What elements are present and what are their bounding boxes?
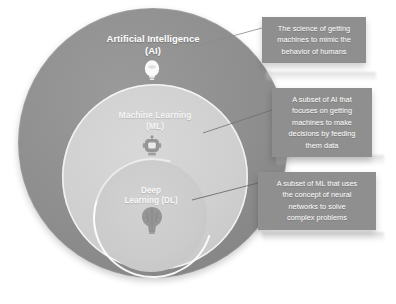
ml-circle-label: Machine Learning (ML) [78, 110, 232, 131]
callout-dl[interactable]: A subset of ML that uses the concept of … [258, 172, 376, 230]
dl-circle-label: Deep Learning (DL) [100, 186, 202, 207]
callout-ai[interactable]: The science of getting machines to mimic… [262, 17, 366, 63]
lightbulb-brain-icon [141, 58, 163, 84]
callout-ml[interactable]: A subset of AI that focuses on getting m… [272, 88, 372, 157]
callout-ai-reflection [266, 72, 376, 81]
diagram-canvas: Artificial Intelligence (AI) Machine Lea… [0, 0, 396, 304]
brain-icon [138, 205, 166, 235]
callout-dl-reflection [262, 232, 384, 242]
robot-head-icon [142, 134, 162, 158]
ai-circle-label: Artificial Intelligence (AI) [63, 33, 243, 57]
